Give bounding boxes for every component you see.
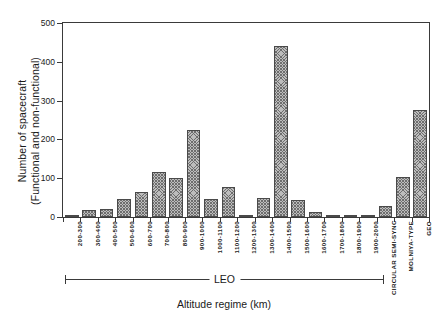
y-tick — [57, 178, 63, 179]
bar — [396, 177, 410, 217]
bar-slot — [98, 23, 115, 217]
bar-slot — [237, 23, 254, 217]
bar — [257, 198, 271, 217]
x-tick-label: 400-500 — [109, 221, 120, 267]
y-tick — [57, 139, 63, 140]
bar — [187, 130, 201, 217]
bar — [344, 215, 358, 217]
bar — [361, 215, 375, 217]
x-tick-label: 1700-1800 — [336, 221, 347, 267]
bar — [309, 212, 323, 217]
x-tick-label: 900-1000 — [196, 221, 207, 267]
x-axis-title: Altitude regime (km) — [0, 298, 448, 310]
leo-bracket: LEO — [65, 275, 384, 284]
x-group-label: MOLNIYA-TYPE — [405, 221, 416, 295]
bar — [413, 110, 427, 217]
x-tick-label: 1600-1700 — [318, 221, 329, 267]
bar-slot — [150, 23, 167, 217]
bar — [117, 199, 131, 217]
bar-slot — [272, 23, 289, 217]
bracket-cap-left — [65, 275, 66, 284]
y-tick-label: 500 — [31, 18, 55, 28]
y-tick-label: 0 — [31, 212, 55, 222]
x-tick-label: 1300-1400 — [266, 221, 277, 267]
x-tick-label-group: 200-300300-400400-500500-600600-700700-8… — [62, 221, 428, 267]
bar — [135, 192, 149, 217]
bar — [169, 178, 183, 217]
x-tick-label: 300-400 — [92, 221, 103, 267]
x-tick-label: 800-900 — [179, 221, 190, 267]
bar-slot — [307, 23, 324, 217]
bar-slot — [324, 23, 341, 217]
bar-slot — [394, 23, 411, 217]
y-tick — [57, 23, 63, 24]
x-tick-label: 1200-1300 — [248, 221, 259, 267]
bar-slot — [202, 23, 219, 217]
x-tick-label: 1000-1100 — [214, 221, 225, 267]
y-tick-label: 300 — [31, 96, 55, 106]
bar — [222, 187, 236, 217]
bar-slot — [342, 23, 359, 217]
bar — [291, 200, 305, 217]
y-tick — [57, 62, 63, 63]
x-tick-label: 1100-1200 — [231, 221, 242, 267]
bar — [65, 215, 79, 217]
bar-slot — [80, 23, 97, 217]
x-tick-label: 600-700 — [144, 221, 155, 267]
x-tick-label: 1900-2000 — [370, 221, 381, 267]
x-tick-label: 700-800 — [161, 221, 172, 267]
bar-slot — [377, 23, 394, 217]
y-tick — [57, 101, 63, 102]
bar-slot — [359, 23, 376, 217]
x-tick-label: 1400-1500 — [283, 221, 294, 267]
x-group-label: CIRCULAR SEMI-SYNC — [388, 221, 399, 295]
x-tick-label: 1800-1900 — [353, 221, 364, 267]
x-group-label: GEO — [423, 221, 434, 295]
bar-slot — [289, 23, 306, 217]
chart-figure: Number of spacecraft (Functional and non… — [0, 0, 448, 322]
bracket-cap-right — [383, 275, 384, 284]
bar — [326, 215, 340, 217]
bar — [204, 199, 218, 217]
bar-slot — [411, 23, 428, 217]
y-tick-label: 100 — [31, 173, 55, 183]
bar — [274, 46, 288, 217]
bar-slot — [255, 23, 272, 217]
bar — [100, 209, 114, 217]
bar — [379, 206, 393, 217]
bar-slot — [133, 23, 150, 217]
y-tick-label: 400 — [31, 57, 55, 67]
plot-area: 0100200300400500 — [62, 22, 430, 218]
bar-slot — [185, 23, 202, 217]
bar-slot — [63, 23, 80, 217]
x-tick-label: 500-600 — [126, 221, 137, 267]
bracket-label: LEO — [209, 274, 240, 285]
bar — [152, 172, 166, 217]
bar-series — [63, 23, 429, 217]
bar-slot — [220, 23, 237, 217]
x-tick-label: 200-300 — [74, 221, 85, 267]
bar — [239, 215, 253, 217]
y-tick-label: 200 — [31, 134, 55, 144]
bar-slot — [115, 23, 132, 217]
bar — [82, 210, 96, 217]
bar-slot — [168, 23, 185, 217]
x-tick-label: 1500-1600 — [301, 221, 312, 267]
